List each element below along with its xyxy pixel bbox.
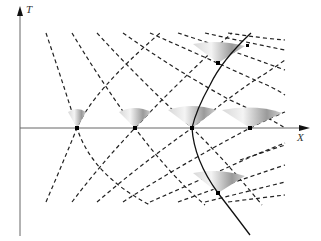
t-axis-arrow-icon <box>17 6 23 16</box>
light-cone-2 <box>119 108 151 128</box>
event-point <box>248 126 252 130</box>
light-cone-upper <box>193 42 245 63</box>
axes <box>17 6 310 236</box>
event-point <box>216 191 220 195</box>
light-cone-1 <box>68 109 86 128</box>
event-point <box>133 126 137 130</box>
event-point <box>246 44 249 47</box>
worldline-curve <box>192 33 251 235</box>
light-cones <box>68 42 282 193</box>
event-point <box>216 61 220 65</box>
event-point <box>190 126 194 130</box>
x-axis-label: X <box>297 131 304 143</box>
light-cone-3 <box>168 106 216 128</box>
light-cone-lower <box>193 171 245 193</box>
spacetime-diagram <box>0 0 321 241</box>
t-axis-label: T <box>26 3 32 15</box>
event-point <box>75 126 79 130</box>
light-cone-4 <box>222 108 282 128</box>
